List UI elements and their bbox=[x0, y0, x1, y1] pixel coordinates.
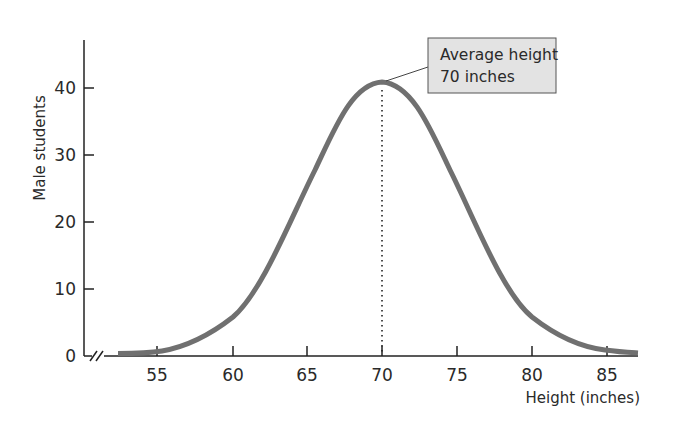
y-tick-labels: 0 10 20 30 40 bbox=[54, 78, 76, 366]
x-tick-85: 85 bbox=[596, 365, 618, 385]
y-ticks bbox=[84, 88, 94, 289]
y-tick-40: 40 bbox=[54, 78, 76, 98]
y-tick-10: 10 bbox=[54, 279, 76, 299]
x-tick-55: 55 bbox=[146, 365, 168, 385]
y-tick-20: 20 bbox=[54, 212, 76, 232]
y-tick-30: 30 bbox=[54, 145, 76, 165]
callout-line-2: 70 inches bbox=[440, 68, 515, 86]
y-tick-0: 0 bbox=[65, 346, 76, 366]
callout-line-1: Average height bbox=[440, 46, 558, 64]
x-tick-65: 65 bbox=[296, 365, 318, 385]
x-tick-75: 75 bbox=[446, 365, 468, 385]
bell-curve-chart: 0 10 20 30 40 Male students 55 60 65 70 … bbox=[0, 0, 676, 429]
x-axis-label: Height (inches) bbox=[525, 389, 640, 407]
x-tick-60: 60 bbox=[222, 365, 244, 385]
callout-leader bbox=[386, 67, 428, 81]
y-axis-label: Male students bbox=[31, 95, 49, 201]
x-tick-70: 70 bbox=[371, 365, 393, 385]
x-tick-labels: 55 60 65 70 75 80 85 bbox=[146, 365, 618, 385]
bell-curve bbox=[118, 82, 638, 354]
x-tick-80: 80 bbox=[521, 365, 543, 385]
